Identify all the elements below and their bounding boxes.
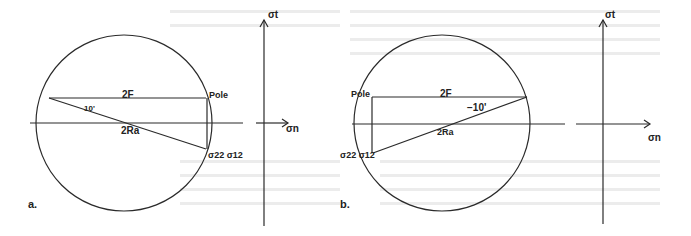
chord-2f-label: 2F [122, 89, 134, 100]
sigma-n-label: σn [286, 123, 299, 134]
diameter-label: 2Ra [437, 127, 455, 137]
mohr-circle [354, 35, 530, 211]
panel-b: 2F −10' 2Ra Pole σ22 σ12 b. σt σn [340, 9, 661, 224]
chord-2f-label: 2F [440, 88, 452, 99]
mohr-circle-figure: 2F 10' 2Ra Pole σ22 σ12 a. σt σn 2F −10'… [0, 0, 691, 236]
stress-point-label: σ22 σ12 [340, 150, 375, 160]
angle-label: −10' [467, 102, 486, 113]
panel-label: a. [28, 198, 37, 210]
pole-label: Pole [209, 90, 228, 100]
diameter-line [373, 97, 527, 153]
pole-label: Pole [351, 89, 370, 99]
diameter-label: 2Ra [121, 125, 140, 136]
sigma-n-label: σn [648, 132, 661, 143]
stress-point-label: σ22 σ12 [208, 150, 243, 160]
panel-label: b. [340, 198, 350, 210]
panel-a: 2F 10' 2Ra Pole σ22 σ12 a. σt σn [28, 9, 299, 226]
sigma-t-label: σt [605, 9, 616, 20]
angle-label: 10' [84, 104, 95, 113]
sigma-t-label: σt [268, 9, 279, 20]
